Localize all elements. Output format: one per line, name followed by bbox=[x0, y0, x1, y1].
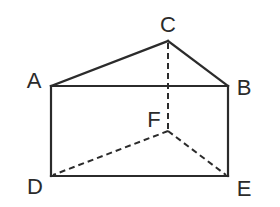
hidden-edge-f-d bbox=[53, 131, 168, 175]
edge-a-c bbox=[51, 41, 168, 86]
vertex-label-a: A bbox=[27, 70, 42, 92]
vertex-label-f: F bbox=[147, 109, 160, 131]
vertex-label-b: B bbox=[237, 77, 252, 99]
hidden-edge-f-e bbox=[168, 131, 226, 175]
edge-c-b bbox=[168, 41, 228, 86]
vertex-label-c: C bbox=[160, 14, 176, 36]
vertex-label-d: D bbox=[27, 176, 43, 198]
vertex-label-e: E bbox=[237, 178, 252, 200]
